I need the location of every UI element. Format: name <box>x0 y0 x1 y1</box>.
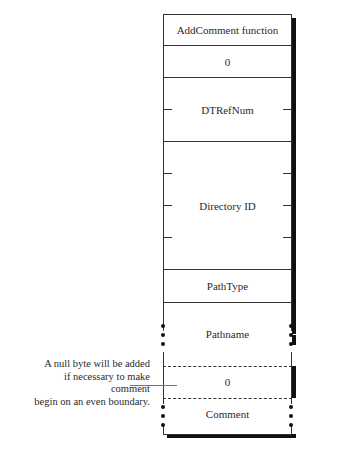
word-tick-right <box>283 237 292 238</box>
field-directory-id: Directory ID <box>163 199 292 213</box>
continuation-dot <box>161 342 165 346</box>
word-tick-right <box>283 109 292 110</box>
word-tick-left <box>163 205 172 206</box>
stack-shadow-right-lower <box>292 194 296 334</box>
continuation-dot <box>289 342 293 346</box>
stack-bottom-border <box>163 434 292 435</box>
row-divider <box>163 45 292 46</box>
word-tick-left <box>163 109 172 110</box>
stack-shadow-right-zero <box>292 366 296 398</box>
continuation-dot <box>289 324 293 328</box>
row-divider-dashed <box>163 398 292 399</box>
stack-top-border <box>163 14 292 15</box>
field-zero: 0 <box>163 55 292 69</box>
word-tick-right <box>283 205 292 206</box>
field-pathtype: PathType <box>163 279 292 293</box>
null-byte-annotation: A null byte will be added if necessary t… <box>30 358 150 408</box>
stack-shadow-right <box>292 18 296 194</box>
row-divider <box>163 302 292 303</box>
annotation-line-1: A null byte will be added <box>30 358 150 371</box>
annotation-line-3: begin on an even boundary. <box>30 396 150 409</box>
continuation-dot <box>161 423 165 427</box>
word-tick-right <box>283 173 292 174</box>
row-divider <box>163 269 292 270</box>
field-comment: Comment <box>163 407 292 421</box>
annotation-leader-line <box>130 385 177 386</box>
row-divider-dashed <box>163 366 292 367</box>
continuation-dot <box>289 405 293 409</box>
continuation-dot <box>289 414 293 418</box>
continuation-dot <box>161 324 165 328</box>
continuation-dot <box>289 333 293 337</box>
word-tick-left <box>163 173 172 174</box>
field-pathname: Pathname <box>163 327 292 341</box>
field-dtrefnum: DTRefNum <box>163 103 292 117</box>
annotation-line-2: if necessary to make comment <box>30 371 150 396</box>
continuation-dot <box>289 423 293 427</box>
field-null-byte: 0 <box>163 375 292 389</box>
row-divider <box>163 141 292 142</box>
word-tick-left <box>163 237 172 238</box>
field-addcomment-function: AddComment function <box>163 23 292 37</box>
row-divider <box>163 77 292 78</box>
continuation-dot <box>161 333 165 337</box>
continuation-dot <box>161 414 165 418</box>
continuation-dot <box>161 405 165 409</box>
